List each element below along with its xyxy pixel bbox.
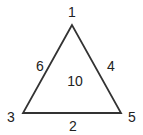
edge-label-bottom: 2 <box>69 118 77 134</box>
edge-label-right: 4 <box>107 58 115 74</box>
triangle-diagram: 1 3 5 6 4 2 10 <box>0 0 143 135</box>
vertex-label-top: 1 <box>68 4 76 20</box>
vertex-label-bottom-right: 5 <box>128 109 136 125</box>
edge-label-left: 6 <box>36 58 44 74</box>
vertex-label-bottom-left: 3 <box>7 109 15 125</box>
face-label: 10 <box>67 73 83 89</box>
